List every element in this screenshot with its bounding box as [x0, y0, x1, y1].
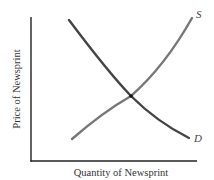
supply-label: S: [196, 8, 202, 20]
supply-demand-chart: S D Quantity of Newsprint Price of Newsp…: [0, 0, 214, 180]
equilibrium-point: [129, 94, 133, 98]
demand-label: D: [193, 132, 202, 144]
supply-curve: [72, 18, 192, 139]
demand-curve: [69, 20, 189, 138]
y-axis-label: Price of Newsprint: [11, 49, 22, 128]
x-axis-label: Quantity of Newsprint: [74, 167, 169, 178]
